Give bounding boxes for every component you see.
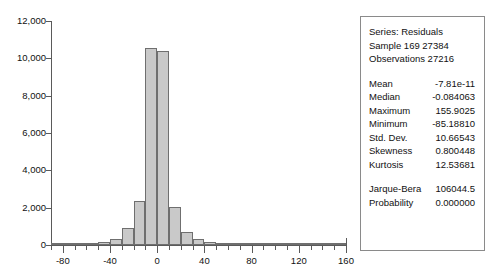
- histogram-bar: [252, 243, 264, 245]
- stat-label: Minimum: [369, 117, 408, 131]
- x-axis-major-tick: [346, 246, 347, 253]
- x-axis-minor-tick: [75, 246, 76, 250]
- histogram-statistics-window: 02,0004,0006,0008,00010,00012,000 -80-40…: [0, 0, 492, 273]
- x-axis-minor-tick: [334, 246, 335, 250]
- histogram-bar: [169, 207, 181, 245]
- x-axis-minor-tick: [86, 246, 87, 250]
- x-axis-major-tick: [299, 246, 300, 253]
- y-axis-tick-label: 6,000: [0, 128, 46, 138]
- statistics-panel: Series: Residuals Sample 169 27384 Obser…: [360, 16, 485, 251]
- x-axis-tick-label: 120: [291, 255, 307, 266]
- x-axis-minor-tick: [228, 246, 229, 250]
- x-axis-end-cap: [346, 238, 347, 246]
- stat-label: Kurtosis: [369, 158, 403, 172]
- x-axis-tick-label: 40: [199, 255, 210, 266]
- stat-value: 12.53681: [435, 158, 475, 172]
- stat-value: 0.000000: [435, 196, 475, 210]
- histogram-bar: [98, 242, 110, 245]
- x-axis-minor-tick: [134, 246, 135, 250]
- x-axis-major-tick: [157, 246, 158, 253]
- histogram-bar: [263, 243, 275, 245]
- histogram-bar: [157, 51, 169, 245]
- x-axis-minor-tick: [181, 246, 182, 250]
- y-axis-tick-label: 10,000: [0, 53, 46, 63]
- histogram-bar: [322, 243, 334, 245]
- histogram-bar: [63, 243, 75, 245]
- y-axis: 02,0004,0006,0008,00010,00012,000: [0, 0, 46, 273]
- histogram-chart: 02,0004,0006,0008,00010,00012,000 -80-40…: [0, 0, 355, 273]
- x-axis-minor-tick: [322, 246, 323, 250]
- test-statistic-row: Jarque-Bera106044.5: [361, 182, 484, 196]
- x-axis-tick-label: 0: [155, 255, 160, 266]
- y-axis-tick-label: 4,000: [0, 165, 46, 175]
- x-axis-major-tick: [110, 246, 111, 253]
- histogram-bar: [145, 48, 157, 245]
- series-name-line: Series: Residuals: [361, 25, 484, 39]
- histogram-bar: [110, 239, 122, 245]
- statistic-row: Maximum155.9025: [361, 104, 484, 118]
- observations-line: Observations 27216: [361, 52, 484, 66]
- x-axis-minor-tick: [169, 246, 170, 250]
- histogram-bar: [287, 243, 299, 245]
- stat-value: -0.084063: [432, 90, 475, 104]
- stat-label: Mean: [369, 77, 393, 91]
- x-axis-tick-label: -80: [56, 255, 70, 266]
- x-axis-tick-label: 80: [246, 255, 257, 266]
- stats-spacer-2: [361, 171, 484, 182]
- x-axis-minor-tick: [287, 246, 288, 250]
- stat-value: -7.81e-11: [435, 77, 475, 91]
- histogram-bar: [193, 239, 205, 245]
- stat-label: Std. Dev.: [369, 131, 407, 145]
- statistic-row: Mean-7.81e-11: [361, 77, 484, 91]
- x-axis-major-tick: [204, 246, 205, 253]
- y-axis-tick-label: 0: [0, 240, 46, 250]
- stat-label: Jarque-Bera: [369, 182, 421, 196]
- test-statistic-row: Probability0.000000: [361, 196, 484, 210]
- x-axis-minor-tick: [98, 246, 99, 250]
- statistic-row: Minimum-85.18810: [361, 117, 484, 131]
- histogram-bar: [51, 243, 63, 245]
- normality-test-list: Jarque-Bera106044.5Probability0.000000: [361, 182, 484, 209]
- y-axis-tick-label: 2,000: [0, 203, 46, 213]
- histogram-bar: [75, 243, 87, 245]
- histogram-bar: [275, 243, 287, 245]
- x-axis-line: [51, 245, 346, 246]
- stat-label: Skewness: [369, 144, 412, 158]
- stats-spacer: [361, 66, 484, 77]
- histogram-bar: [299, 243, 311, 245]
- stat-value: 10.66543: [435, 131, 475, 145]
- histogram-bar: [122, 228, 134, 245]
- stat-value: 0.800448: [435, 144, 475, 158]
- histogram-bar: [216, 243, 228, 245]
- histogram-bar: [311, 243, 323, 245]
- stat-value: 155.9025: [435, 104, 475, 118]
- stat-value: 106044.5: [435, 182, 475, 196]
- histogram-bar: [204, 242, 216, 245]
- histogram-bar: [181, 232, 193, 245]
- statistic-row: Median-0.084063: [361, 90, 484, 104]
- x-axis-minor-tick: [51, 246, 52, 250]
- stat-value: -85.18810: [432, 117, 475, 131]
- y-axis-tick-label: 12,000: [0, 16, 46, 26]
- x-axis-minor-tick: [311, 246, 312, 250]
- x-axis-minor-tick: [240, 246, 241, 250]
- statistic-row: Skewness0.800448: [361, 144, 484, 158]
- stat-label: Maximum: [369, 104, 410, 118]
- x-axis-major-tick: [63, 246, 64, 253]
- histogram-bars: [51, 21, 346, 245]
- stat-label: Median: [369, 90, 400, 104]
- histogram-bar: [228, 243, 240, 245]
- x-axis-minor-tick: [263, 246, 264, 250]
- x-axis-minor-tick: [216, 246, 217, 250]
- descriptive-statistics-list: Mean-7.81e-11Median-0.084063Maximum155.9…: [361, 77, 484, 172]
- x-axis-major-tick: [252, 246, 253, 253]
- statistic-row: Std. Dev.10.66543: [361, 131, 484, 145]
- x-axis-minor-tick: [193, 246, 194, 250]
- histogram-bar: [240, 243, 252, 245]
- sample-range-line: Sample 169 27384: [361, 39, 484, 53]
- x-axis-tick-label: -40: [103, 255, 117, 266]
- x-axis-minor-tick: [145, 246, 146, 250]
- x-axis-minor-tick: [275, 246, 276, 250]
- histogram-bar: [134, 201, 146, 245]
- x-axis-tick-label: 160: [338, 255, 354, 266]
